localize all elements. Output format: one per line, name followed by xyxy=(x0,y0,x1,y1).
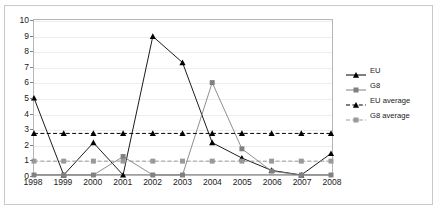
data-point xyxy=(61,159,66,164)
data-point xyxy=(150,33,156,39)
legend-item-eu[interactable]: EU xyxy=(345,63,433,78)
y-tick-label: 1 xyxy=(24,156,29,165)
y-tick-label: 4 xyxy=(24,109,29,118)
y-tick-label: 2 xyxy=(24,141,29,150)
y-tick-mark xyxy=(30,36,33,37)
data-point xyxy=(269,159,274,164)
chart-legend: EUG8EU averageG8 average xyxy=(345,63,433,123)
y-tick-mark xyxy=(30,114,33,115)
data-point xyxy=(180,159,185,164)
series-eu-average xyxy=(31,130,334,136)
legend-item-eu-average[interactable]: EU average xyxy=(345,93,433,108)
legend-item-g8[interactable]: G8 xyxy=(345,78,433,93)
legend-swatch-icon xyxy=(345,81,367,91)
y-tick-mark xyxy=(30,20,33,21)
legend-label: EU average xyxy=(370,97,410,105)
data-point xyxy=(91,159,96,164)
data-point xyxy=(90,140,96,146)
x-tick-label: 2005 xyxy=(233,178,252,187)
data-point xyxy=(299,159,304,164)
data-point xyxy=(239,146,244,151)
data-point xyxy=(150,159,155,164)
y-tick-mark xyxy=(30,98,33,99)
x-tick-label: 2008 xyxy=(323,178,342,187)
y-tick-mark xyxy=(30,145,33,146)
data-point xyxy=(210,80,215,85)
y-tick-mark xyxy=(30,129,33,130)
data-point xyxy=(210,159,215,164)
y-tick-label: 7 xyxy=(24,63,29,72)
x-tick-label: 1998 xyxy=(24,178,43,187)
y-tick-label: 8 xyxy=(24,47,29,56)
legend-swatch-icon xyxy=(345,66,367,76)
legend-swatch-icon xyxy=(345,111,367,121)
data-point xyxy=(239,159,244,164)
data-point xyxy=(121,154,126,159)
x-axis: 1998199920002001200220032004200520062007… xyxy=(33,178,333,194)
legend-label: EU xyxy=(370,67,381,75)
series-line xyxy=(34,36,331,175)
y-tick-label: 10 xyxy=(20,16,29,25)
y-tick-label: 5 xyxy=(24,94,29,103)
x-tick-label: 2004 xyxy=(203,178,222,187)
y-tick-label: 3 xyxy=(24,125,29,134)
x-tick-label: 1999 xyxy=(53,178,72,187)
data-point xyxy=(269,169,274,174)
y-tick-label: 6 xyxy=(24,78,29,87)
y-tick-mark xyxy=(30,51,33,52)
x-tick-label: 2003 xyxy=(173,178,192,187)
legend-item-g8-average[interactable]: G8 average xyxy=(345,108,433,123)
x-tick-label: 2007 xyxy=(293,178,312,187)
data-point xyxy=(121,159,126,164)
y-tick-mark xyxy=(30,67,33,68)
legend-label: G8 xyxy=(370,82,380,90)
series-eu xyxy=(31,33,334,177)
y-tick-mark xyxy=(30,160,33,161)
legend-swatch-icon xyxy=(345,96,367,106)
data-point xyxy=(209,140,215,146)
data-point xyxy=(329,159,334,164)
x-tick-label: 2000 xyxy=(83,178,102,187)
x-tick-label: 2001 xyxy=(113,178,132,187)
plot-area xyxy=(33,19,333,176)
x-tick-label: 2002 xyxy=(143,178,162,187)
legend-label: G8 average xyxy=(370,112,410,120)
series-layer xyxy=(34,20,332,175)
y-tick-label: 9 xyxy=(24,31,29,40)
y-tick-mark xyxy=(30,82,33,83)
x-tick-label: 2006 xyxy=(263,178,282,187)
chart-figure: 012345678910 199819992000200120022003200… xyxy=(0,0,438,210)
